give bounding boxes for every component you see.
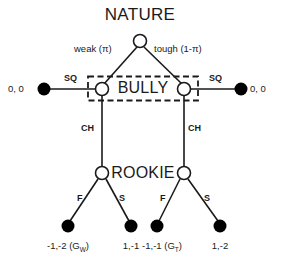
payoff-sq-right: 0, 0: [250, 84, 266, 94]
node-bully-right: [178, 83, 191, 96]
payoff-sq-left: 0, 0: [8, 84, 24, 94]
branch-label-weak: weak (π): [74, 44, 112, 54]
branch-label-ch-right: CH: [188, 124, 201, 133]
node-rookie-right: [178, 167, 191, 180]
payoff-f-left-main: -1,-2 (G: [47, 240, 80, 251]
game-tree-figure: NATURE weak (π) tough (1-π) BULLY SQ SQ …: [0, 0, 283, 263]
terminal-node-sq-left: [38, 83, 51, 96]
edge-rookie-left-to-s-terminal: [106, 179, 129, 221]
payoff-f-left-end: ): [86, 240, 89, 251]
branch-label-s-right: S: [204, 194, 210, 203]
branch-label-sq-right: SQ: [209, 74, 222, 83]
terminal-node-sq-right: [235, 83, 248, 96]
terminal-node-s-right: [214, 220, 227, 233]
payoff-s-right: 1,-2: [212, 241, 228, 251]
node-rookie-left: [96, 167, 109, 180]
terminal-node-f-left: [62, 220, 75, 233]
branch-label-f-left: F: [77, 194, 83, 203]
payoff-f-right-main: -1,-1 (G: [142, 240, 175, 251]
payoff-f-left: -1,-2 (GW): [47, 241, 89, 253]
payoff-f-right-end: ): [179, 240, 182, 251]
bully-player-label: BULLY: [117, 80, 170, 96]
branch-label-s-left: S: [119, 194, 125, 203]
edge-rookie-left-to-f-terminal: [70, 179, 98, 221]
branch-label-f-right: F: [160, 194, 166, 203]
branch-label-ch-left: CH: [81, 124, 94, 133]
tree-edges-layer: [0, 0, 283, 263]
rookie-player-label: ROOKIE: [110, 165, 175, 181]
nature-player-label: NATURE: [105, 6, 175, 23]
branch-label-tough: tough (1-π): [154, 44, 202, 54]
node-bully-left: [96, 83, 109, 96]
branch-label-sq-left: SQ: [64, 74, 77, 83]
edge-rookie-right-to-s-terminal: [188, 179, 218, 221]
node-nature: [134, 35, 147, 48]
payoff-f-right: -1,-1 (GT): [142, 241, 182, 253]
terminal-node-s-left: [125, 220, 138, 233]
payoff-s-left: 1,-1: [123, 241, 139, 251]
terminal-node-f-right: [151, 220, 164, 233]
